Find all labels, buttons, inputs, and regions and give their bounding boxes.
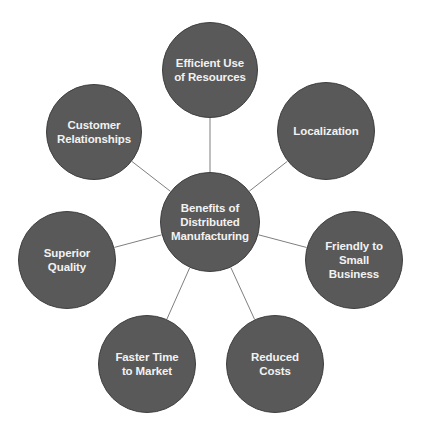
node-label: Localization <box>293 124 358 138</box>
node-label: Superior Quality <box>44 246 91 274</box>
connector-line <box>114 235 161 248</box>
node-label: Efficient Use of Resources <box>174 56 246 84</box>
node-friendly-to-small-business: Friendly to Small Business <box>305 211 403 309</box>
node-customer-relationships: Customer Relationships <box>46 84 142 180</box>
node-label: Faster Time to Market <box>115 350 178 378</box>
connector-line <box>249 161 287 191</box>
node-reduced-costs: Reduced Costs <box>226 315 324 413</box>
hub-and-spoke-diagram: Benefits of Distributed Manufacturing Ef… <box>0 0 422 430</box>
node-localization: Localization <box>277 82 375 180</box>
connector-line <box>231 267 255 319</box>
node-efficient-use-of-resources: Efficient Use of Resources <box>162 22 258 118</box>
node-label: Friendly to Small Business <box>325 239 383 281</box>
center-node-label: Benefits of Distributed Manufacturing <box>171 201 249 243</box>
node-label: Customer Relationships <box>57 118 131 146</box>
node-label: Reduced Costs <box>251 350 299 378</box>
node-faster-time-to-market: Faster Time to Market <box>98 315 196 413</box>
connector-line <box>132 161 171 191</box>
connector-line <box>258 235 306 248</box>
node-superior-quality: Superior Quality <box>18 211 116 309</box>
center-node-benefits-of-distributed-manufacturing: Benefits of Distributed Manufacturing <box>160 172 260 272</box>
connector-line <box>167 268 190 320</box>
